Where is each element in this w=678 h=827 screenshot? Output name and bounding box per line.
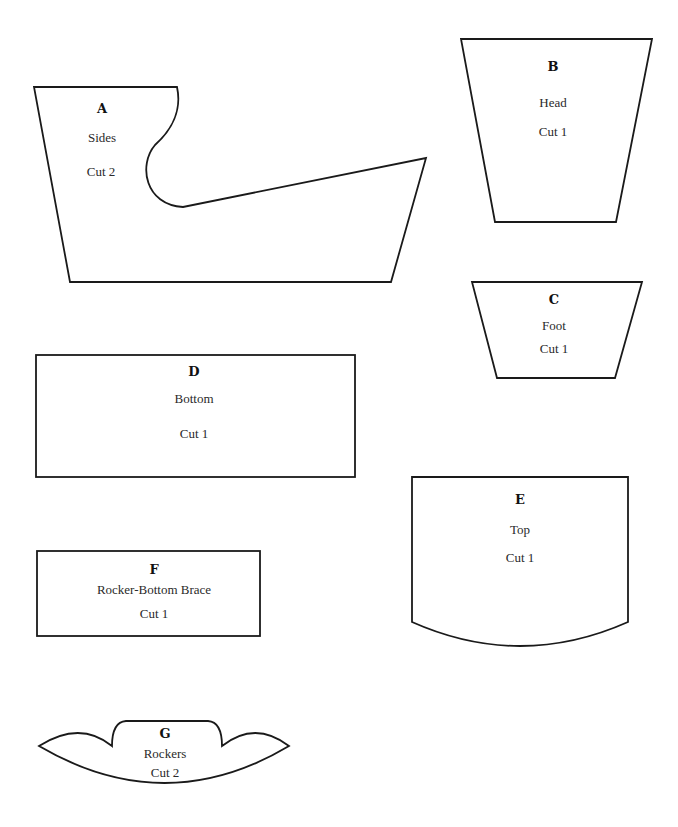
piece-d-letter: D <box>188 364 199 380</box>
piece-c-cut: Cut 1 <box>540 341 569 357</box>
piece-b-letter: B <box>548 59 559 75</box>
piece-a-name: Sides <box>88 130 116 146</box>
piece-f-name: Rocker-Bottom Brace <box>97 582 211 598</box>
pattern-pieces <box>0 0 678 827</box>
piece-f-letter: F <box>149 562 158 578</box>
piece-c-letter: C <box>549 292 559 308</box>
piece-a-cut: Cut 2 <box>87 164 116 180</box>
piece-g-cut: Cut 2 <box>151 765 180 781</box>
piece-d-cut: Cut 1 <box>180 426 209 442</box>
piece-g-name: Rockers <box>144 746 187 762</box>
piece-b-name: Head <box>539 95 566 111</box>
piece-e-name: Top <box>510 522 530 538</box>
piece-e-letter: E <box>515 492 525 508</box>
piece-f-cut: Cut 1 <box>140 606 169 622</box>
piece-c-name: Foot <box>542 318 566 334</box>
piece-e-cut: Cut 1 <box>506 550 535 566</box>
piece-d-name: Bottom <box>174 391 213 407</box>
piece-b-cut: Cut 1 <box>539 124 568 140</box>
piece-a-outline <box>34 87 426 282</box>
piece-a-letter: A <box>97 101 107 117</box>
piece-g-letter: G <box>159 726 170 742</box>
